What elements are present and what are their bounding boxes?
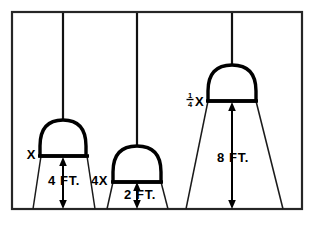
diagram-canvas: 4 FT. X 2 FT. 4X 8 FT. bbox=[0, 0, 313, 226]
lamp-2-brightness-label: 4X bbox=[91, 173, 108, 188]
lamp-3-fraction-numerator: 1 bbox=[188, 91, 192, 100]
lamp-diagram: 4 FT. X 2 FT. 4X 8 FT. bbox=[0, 0, 313, 226]
lamp-3-cone-right-edge bbox=[256, 101, 283, 209]
lamp-1-arrow-up bbox=[59, 157, 67, 166]
lamp-1-brightness-label: X bbox=[27, 147, 36, 162]
lamp-3-brightness-label: 1 4 X bbox=[187, 91, 205, 109]
lamp-1-arrow-down bbox=[59, 200, 67, 209]
lamp-3-height-label: 8 FT. bbox=[217, 150, 249, 165]
lamp-3-brightness-variable: X bbox=[195, 94, 204, 109]
lamp-1-cone-left-edge bbox=[33, 156, 41, 209]
lamp-3-arrow-down bbox=[228, 200, 236, 209]
lamp-3-arrow-up bbox=[228, 102, 236, 111]
lamp-2-shade bbox=[113, 146, 161, 182]
lamp-2-height-label: 2 FT. bbox=[124, 187, 156, 202]
lamp-3-fraction-denominator: 4 bbox=[188, 100, 193, 109]
lamp-1-group: 4 FT. X bbox=[27, 13, 95, 209]
lamp-1-height-label: 4 FT. bbox=[48, 173, 80, 188]
lamp-3-shade bbox=[208, 65, 256, 101]
lamp-2-group: 2 FT. 4X bbox=[91, 13, 168, 209]
lamp-3-cone-left-edge bbox=[186, 101, 208, 209]
lamp-3-group: 8 FT. 1 4 X bbox=[186, 13, 283, 209]
lamp-1-shade bbox=[40, 120, 86, 156]
lamp-2-cone-right-edge bbox=[161, 182, 168, 209]
